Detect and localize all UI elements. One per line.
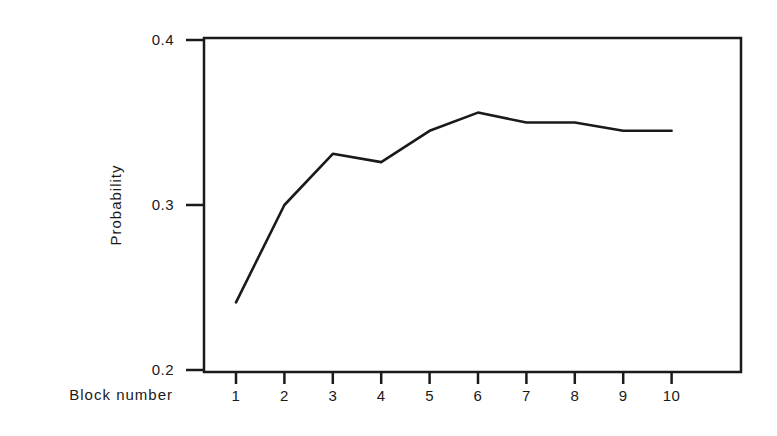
data-line (236, 113, 672, 303)
line-chart: 0.20.30.4 12345678910 Probability Block … (0, 0, 777, 436)
x-tick-label: 2 (280, 387, 289, 404)
y-axis-title: Probability (107, 164, 124, 245)
y-tick-label: 0.3 (152, 196, 174, 213)
y-axis: 0.20.30.4 (152, 31, 204, 378)
x-tick-label: 8 (570, 387, 579, 404)
x-tick-label: 7 (522, 387, 531, 404)
x-tick-label: 5 (425, 387, 434, 404)
x-tick-label: 9 (619, 387, 628, 404)
x-axis-title: Block number (69, 386, 173, 403)
x-tick-label: 4 (377, 387, 386, 404)
x-tick-label: 10 (663, 387, 681, 404)
y-tick-label: 0.2 (152, 361, 174, 378)
x-tick-label: 6 (474, 387, 483, 404)
x-tick-label: 1 (232, 387, 241, 404)
x-axis: 12345678910 (232, 372, 681, 404)
x-tick-label: 3 (328, 387, 337, 404)
y-tick-label: 0.4 (152, 31, 174, 48)
